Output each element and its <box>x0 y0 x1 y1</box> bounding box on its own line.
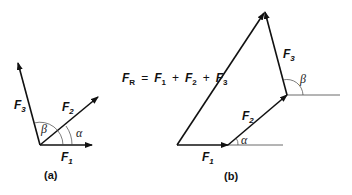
diagram-svg: F1 F2 F3 α β (a) F1 F2 F3 α β FR = F1 + … <box>0 0 352 195</box>
f1-label-a: F1 <box>61 150 73 166</box>
f3-label-a: F3 <box>14 98 26 114</box>
alpha-arc-a <box>66 126 72 145</box>
alpha-label-a: α <box>76 126 83 140</box>
beta-label-a: β <box>40 122 47 136</box>
f3-label-b: F3 <box>283 47 295 63</box>
f2-label-a: F2 <box>62 100 74 116</box>
alpha-arc-b <box>236 138 238 145</box>
f1-label-b: F1 <box>202 150 214 166</box>
resultant-equation: FR = F1 + F2 + F3 <box>122 68 228 88</box>
f2-vector-b <box>228 95 287 145</box>
beta-label-b: β <box>299 72 306 86</box>
panel-b: F1 F2 F3 α β FR = F1 + F2 + F3 (b) <box>122 12 340 182</box>
alpha-label-b: α <box>241 133 248 147</box>
vector-addition-diagram: F1 F2 F3 α β (a) F1 F2 F3 α β FR = F1 + … <box>0 0 352 195</box>
caption-b: (b) <box>224 170 238 182</box>
panel-a: F1 F2 F3 α β (a) <box>14 63 98 181</box>
f2-label-b: F2 <box>242 109 254 125</box>
caption-a: (a) <box>44 169 58 181</box>
